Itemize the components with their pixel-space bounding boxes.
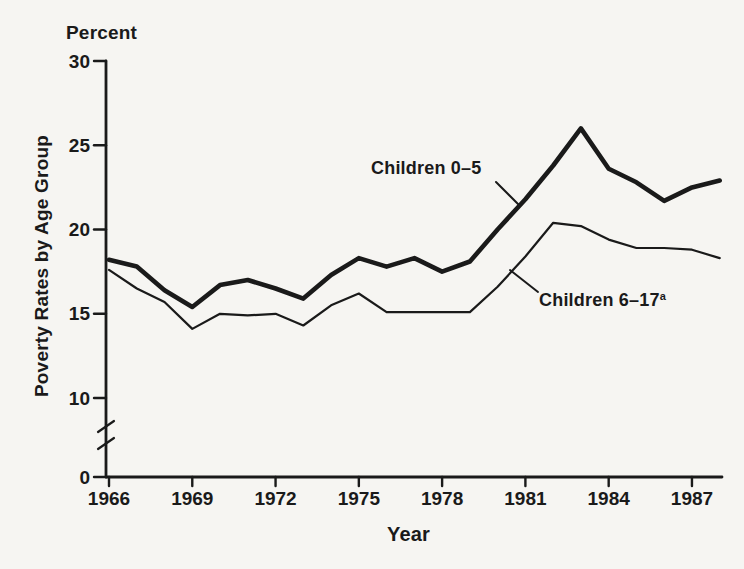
x-tick-label: 1978 [421,488,463,509]
x-tick-label: 1981 [504,488,547,509]
x-tick-label: 1966 [88,488,130,509]
series-label-children-0-5: Children 0–5 [371,158,481,179]
series-label-text: Children 0–5 [371,158,481,178]
x-tick-label: 1972 [254,488,296,509]
series-line-children-0-5 [109,128,720,307]
series-label-superscript: a [660,290,666,302]
poverty-rates-figure: 0101520253019661969197219751978198119841… [0,0,744,569]
pointer-children-6-17 [510,270,538,292]
y-tick-label: 0 [79,467,90,488]
x-tick-label: 1975 [338,488,381,509]
pointer-children-0-5 [496,182,518,204]
x-axis-title: Year [387,523,430,546]
y-tick-label: 25 [69,135,91,156]
y-tick-label: 15 [69,303,91,324]
series-line-children-6-17 [109,223,720,329]
x-tick-label: 1969 [171,488,213,509]
y-tick-label: 10 [69,388,90,409]
y-axis-unit-label: Percent [66,22,137,44]
y-tick-label: 30 [69,51,90,72]
series-label-text: Children 6–17 [539,290,660,310]
line-chart-canvas: 0101520253019661969197219751978198119841… [0,0,744,569]
x-tick-label: 1984 [588,488,631,509]
x-tick-label: 1987 [671,488,713,509]
y-tick-label: 20 [69,219,90,240]
y-axis-title: Poverty Rates by Age Group [31,135,53,397]
series-label-children-6-17: Children 6–17a [539,290,666,311]
